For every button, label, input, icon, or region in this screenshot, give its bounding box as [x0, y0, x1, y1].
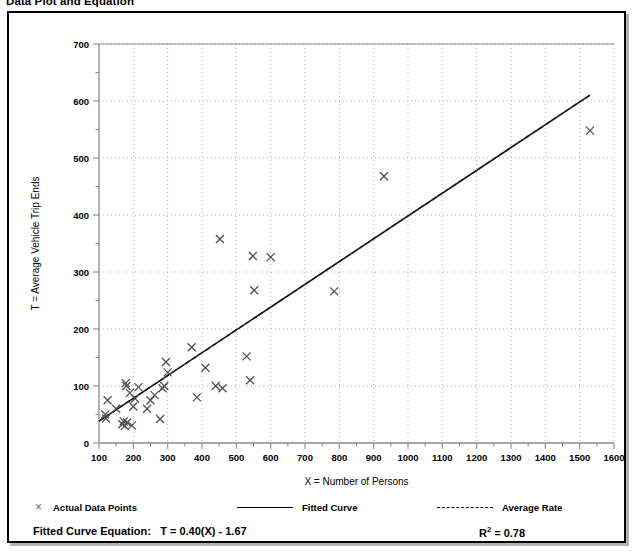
figure-title: Data Plot and Equation — [6, 0, 134, 7]
y-tick-label: 500 — [73, 153, 89, 164]
y-axis-title: T = Average Vehicle Trip Ends — [30, 177, 41, 311]
legend-label-actual-data-points: Actual Data Points — [53, 502, 137, 513]
equation-value: T = 0.40(X) - 1.67 — [160, 525, 247, 537]
data-point-marker — [134, 383, 142, 391]
data-point-marker — [143, 405, 151, 413]
data-point-marker — [201, 364, 209, 372]
x-tick-label: 1500 — [569, 452, 590, 463]
x-tick-label: 100 — [91, 452, 107, 463]
legend-label-average-rate: Average Rate — [502, 502, 562, 513]
trend-lines — [99, 95, 590, 421]
y-tick-label: 0 — [84, 438, 89, 449]
x-marker-icon: × — [33, 502, 44, 513]
data-point-marker — [243, 352, 251, 360]
legend-item-fitted-curve: Fitted Curve — [237, 495, 357, 519]
tick-labels: 1002003004005006007008009001000110012001… — [73, 39, 624, 463]
chart-panel: 1002003004005006007008009001000110012001… — [7, 11, 626, 543]
axes — [93, 44, 614, 449]
solid-line-icon — [237, 507, 293, 508]
r-squared-exponent: 2 — [487, 525, 491, 534]
x-tick-label: 1100 — [432, 452, 453, 463]
data-point-marker — [586, 127, 594, 135]
r-squared-equals: = 0.78 — [494, 527, 525, 539]
data-point-marker — [267, 253, 275, 261]
legend-item-average-rate: Average Rate — [437, 495, 562, 519]
x-tick-label: 900 — [366, 452, 382, 463]
equation-label: Fitted Curve Equation: — [33, 525, 151, 537]
x-axis-title: X = Number of Persons — [304, 476, 408, 487]
y-tick-label: 700 — [73, 39, 89, 50]
grid-lines — [99, 44, 614, 443]
legend-label-fitted-curve: Fitted Curve — [302, 502, 357, 513]
plot-area: 1002003004005006007008009001000110012001… — [9, 13, 624, 491]
data-point-marker — [188, 343, 196, 351]
x-tick-label: 400 — [194, 452, 210, 463]
data-point-marker — [104, 396, 112, 404]
x-tick-label: 1400 — [535, 452, 556, 463]
data-points — [101, 127, 594, 430]
x-tick-label: 800 — [331, 452, 347, 463]
legend-item-actual-data-points: × Actual Data Points — [33, 495, 137, 519]
y-tick-label: 300 — [73, 267, 89, 278]
dashed-line-icon — [437, 507, 493, 508]
data-point-marker — [380, 172, 388, 180]
x-tick-label: 1200 — [466, 452, 487, 463]
data-point-marker — [250, 286, 258, 294]
y-tick-label: 200 — [73, 324, 89, 335]
y-tick-label: 400 — [73, 210, 89, 221]
data-point-marker — [216, 235, 224, 243]
scatter-plot-svg: 1002003004005006007008009001000110012001… — [9, 13, 624, 491]
y-tick-label: 600 — [73, 96, 89, 107]
x-tick-label: 1600 — [603, 452, 624, 463]
data-point-marker — [156, 415, 164, 423]
x-tick-label: 1000 — [397, 452, 418, 463]
data-point-marker — [249, 252, 257, 260]
x-tick-label: 600 — [263, 452, 279, 463]
data-point-marker — [162, 358, 170, 366]
data-point-marker — [129, 403, 137, 411]
chart-legend: × Actual Data Points Fitted Curve Averag… — [9, 495, 624, 519]
x-tick-label: 200 — [125, 452, 141, 463]
data-point-marker — [212, 382, 220, 390]
x-tick-label: 500 — [228, 452, 244, 463]
data-point-marker — [246, 376, 254, 384]
fitted-curve-equation: Fitted Curve Equation: T = 0.40(X) - 1.6… — [33, 525, 247, 537]
x-tick-label: 1300 — [500, 452, 521, 463]
data-point-marker — [151, 391, 159, 399]
data-point-marker — [193, 393, 201, 401]
equation-footer: Fitted Curve Equation: T = 0.40(X) - 1.6… — [9, 525, 624, 549]
y-tick-label: 100 — [73, 381, 89, 392]
data-point-marker — [147, 396, 155, 404]
r-squared-value: R2 = 0.78 — [479, 525, 525, 539]
x-tick-label: 300 — [160, 452, 176, 463]
x-tick-label: 700 — [297, 452, 313, 463]
r-squared-symbol: R — [479, 527, 487, 539]
data-point-marker — [330, 287, 338, 295]
data-point-marker — [219, 384, 227, 392]
